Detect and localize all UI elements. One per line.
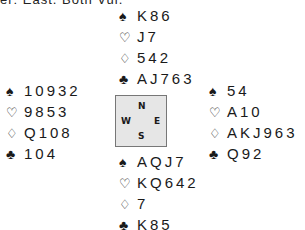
club-icon: ♣ <box>119 215 137 230</box>
heart-icon: ♡ <box>6 102 24 123</box>
east-hearts: ♡A10 <box>209 101 298 122</box>
east-hand: ♠54 ♡A10 ♢AKJ963 ♣Q92 <box>209 80 298 164</box>
north-diamonds: ♢542 <box>119 47 195 68</box>
diamond-icon: ♢ <box>119 48 137 69</box>
west-spades: ♠10932 <box>6 80 81 101</box>
deal-heading: er: East. Both Vul. <box>0 0 123 7</box>
south-hand: ♠AQJ7 ♡KQ642 ♢7 ♣K85 <box>119 151 199 230</box>
compass-east: E <box>154 116 160 126</box>
west-hand: ♠10932 ♡9853 ♢Q108 ♣104 <box>6 80 81 164</box>
east-spades: ♠54 <box>209 80 298 101</box>
south-hearts: ♡KQ642 <box>119 172 199 193</box>
heart-icon: ♡ <box>209 102 227 123</box>
spade-icon: ♠ <box>6 81 24 102</box>
club-icon: ♣ <box>119 69 137 90</box>
compass-west: W <box>121 116 131 126</box>
compass-north: N <box>138 101 146 111</box>
south-spades: ♠AQJ7 <box>119 151 199 172</box>
heart-icon: ♡ <box>119 173 137 194</box>
east-diamonds: ♢AKJ963 <box>209 122 298 143</box>
east-clubs: ♣Q92 <box>209 143 298 164</box>
west-hearts: ♡9853 <box>6 101 81 122</box>
north-hand: ♠K86 ♡J7 ♢542 ♣AJ763 <box>119 5 195 89</box>
spade-icon: ♠ <box>119 6 137 27</box>
spade-icon: ♠ <box>119 152 137 173</box>
north-clubs: ♣AJ763 <box>119 68 195 89</box>
spade-icon: ♠ <box>209 81 227 102</box>
west-diamonds: ♢Q108 <box>6 122 81 143</box>
club-icon: ♣ <box>6 144 24 165</box>
club-icon: ♣ <box>209 144 227 165</box>
diamond-icon: ♢ <box>119 194 137 215</box>
compass-south: S <box>138 131 144 141</box>
diamond-icon: ♢ <box>209 123 227 144</box>
south-diamonds: ♢7 <box>119 193 199 214</box>
compass-box: N W E S <box>115 95 167 147</box>
north-hearts: ♡J7 <box>119 26 195 47</box>
south-clubs: ♣K85 <box>119 214 199 230</box>
diamond-icon: ♢ <box>6 123 24 144</box>
north-spades: ♠K86 <box>119 5 195 26</box>
heart-icon: ♡ <box>119 27 137 48</box>
west-clubs: ♣104 <box>6 143 81 164</box>
